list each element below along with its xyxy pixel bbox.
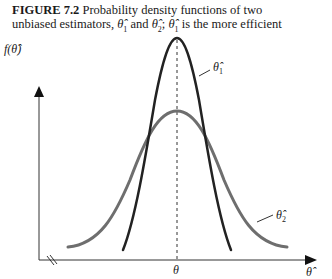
- x-axis-arrow-icon: [305, 255, 317, 265]
- y-axis-label: f(θ̂): [4, 42, 22, 56]
- label-theta-hat-1: θ̂1: [213, 60, 224, 76]
- center-tick-label: θ: [173, 263, 179, 277]
- x-axis-label: θ̂: [306, 265, 317, 279]
- label-theta-hat-2: θ̂2: [276, 208, 287, 224]
- leader-line-1: [199, 70, 210, 76]
- leader-line-2: [257, 215, 273, 222]
- y-axis-arrow-icon: [34, 86, 44, 97]
- density-plot: θ̂1 θ̂2 f(θ̂) θ θ̂: [0, 0, 332, 279]
